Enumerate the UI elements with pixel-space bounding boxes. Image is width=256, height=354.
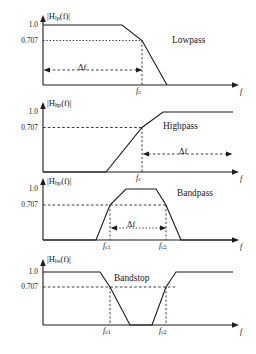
lowpass-deltaf-label: Δf xyxy=(78,63,86,72)
lowpass-ytick-halfpower: 0.707 xyxy=(2,37,38,44)
lowpass-y-axis-label: |Hlp(f)| xyxy=(47,12,70,21)
lowpass-plot xyxy=(0,0,256,92)
highpass-deltaf-label: Δf xyxy=(179,147,187,156)
bandpass-ytick-halfpower: 0.707 xyxy=(2,201,38,208)
bandpass-y-axis-arrow xyxy=(40,178,46,185)
bandstop-filter-name: Bandstop xyxy=(114,274,149,283)
bandstop-xtick-fc2: fc2 xyxy=(159,327,167,336)
panel-bandstop: 1.0 0.707 |Hbs(f)| Bandstop fc1 fc2 f xyxy=(0,256,256,354)
bandpass-xtick-fc2: fc2 xyxy=(159,242,167,251)
highpass-ytick-halfpower: 0.707 xyxy=(2,124,38,131)
bandstop-y-axis-arrow xyxy=(40,259,46,266)
highpass-plot xyxy=(0,88,256,180)
bandstop-ytick-unity: 1.0 xyxy=(8,268,38,275)
highpass-deltaf-arrow-right xyxy=(226,152,233,157)
bandpass-x-axis-label: f xyxy=(240,243,242,251)
bandstop-x-axis-label: f xyxy=(240,328,242,336)
highpass-y-axis-arrow xyxy=(40,102,46,109)
lowpass-ytick-unity: 1.0 xyxy=(8,21,38,28)
lowpass-filter-name: Lowpass xyxy=(172,36,205,45)
bandstop-plot xyxy=(0,256,256,354)
bandstop-y-axis-label: |Hbs(f)| xyxy=(47,255,71,264)
bandstop-xtick-fc1: fc1 xyxy=(103,327,111,336)
bandpass-x-axis-arrow xyxy=(232,237,239,243)
panel-lowpass: 1.0 0.707 |Hlp(f)| Lowpass Δf fc f xyxy=(0,0,256,92)
highpass-y-axis-label: |Hhp(f)| xyxy=(47,99,71,108)
bandpass-y-axis-label: |Hbp(f)| xyxy=(47,177,71,186)
bandstop-ytick-halfpower: 0.707 xyxy=(2,283,38,290)
highpass-ytick-unity: 1.0 xyxy=(8,108,38,115)
highpass-deltaf-arrow-left xyxy=(143,152,150,157)
highpass-response-curve xyxy=(43,112,233,172)
bandpass-xtick-fc1: fc1 xyxy=(103,242,111,251)
lowpass-deltaf-arrow-right xyxy=(136,68,143,73)
bandstop-x-axis-arrow xyxy=(232,322,239,328)
lowpass-x-axis-arrow xyxy=(232,82,239,88)
filter-response-figure: 1.0 0.707 |Hlp(f)| Lowpass Δf fc f 1.0 0… xyxy=(0,0,256,354)
bandpass-deltaf-label: Δf xyxy=(127,220,135,229)
bandpass-deltaf-arrow-right xyxy=(160,226,167,231)
bandpass-filter-name: Bandpass xyxy=(177,189,213,198)
lowpass-y-axis-arrow xyxy=(40,15,46,22)
panel-bandpass: 1.0 0.707 |Hbp(f)| Bandpass Δf fc1 fc2 f xyxy=(0,176,256,264)
bandpass-ytick-unity: 1.0 xyxy=(8,185,38,192)
highpass-x-axis-arrow xyxy=(232,169,239,175)
highpass-filter-name: Highpass xyxy=(163,122,198,131)
lowpass-deltaf-arrow-left xyxy=(44,68,51,73)
panel-highpass: 1.0 0.707 |Hhp(f)| Highpass Δf fc f xyxy=(0,88,256,180)
lowpass-response-curve xyxy=(43,25,167,85)
bandpass-deltaf-arrow-left xyxy=(111,226,118,231)
